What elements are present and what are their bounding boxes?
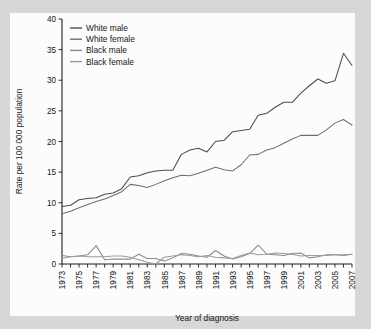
y-tick-label: 0 [51,260,56,269]
y-tick-label: 35 [47,46,57,55]
y-tick-label: 10 [47,199,57,208]
y-tick-label: 25 [47,107,57,116]
y-tick-label: 15 [47,168,57,177]
x-axis-ticks: 1973197519771979198119831985198719891991… [58,264,357,289]
y-tick-label: 5 [51,229,56,238]
x-tick-label: 1995 [246,271,255,290]
legend: White maleWhite femaleBlack maleBlack fe… [70,23,135,67]
legend-label-white-female: White female [86,34,135,44]
x-tick-label: 1997 [263,271,272,290]
x-tick-label: 2005 [331,271,340,290]
chart-svg: 0510152025303540197319751977197919811983… [0,0,371,329]
legend-label-black-female: Black female [86,57,134,67]
x-tick-label: 1979 [109,271,118,290]
y-tick-label: 40 [47,15,57,24]
x-tick-label: 1989 [195,271,204,290]
x-tick-label: 1975 [75,271,84,290]
series-line-white-male [62,53,352,206]
x-axis-title: Year of diagnosis [175,313,239,323]
legend-label-black-male: Black male [86,45,127,55]
series-group [62,53,352,264]
figure-container: 0510152025303540197319751977197919811983… [0,0,371,329]
series-line-black-female [62,253,352,264]
x-tick-label: 1991 [212,271,221,290]
line-chart: 0510152025303540197319751977197919811983… [0,0,371,329]
series-line-white-female [62,119,352,213]
x-tick-label: 1987 [178,271,187,290]
x-tick-label: 1977 [92,271,101,290]
x-tick-label: 2001 [297,271,306,290]
y-tick-label: 30 [47,76,57,85]
x-tick-label: 1973 [58,271,67,290]
series-line-black-male [62,245,352,261]
x-tick-label: 1993 [229,271,238,290]
x-tick-label: 1999 [280,271,289,290]
x-tick-label: 1985 [161,271,170,290]
x-tick-label: 2007 [348,271,357,290]
y-axis-title: Rate per 100 000 population [14,88,24,194]
x-tick-label: 1981 [126,271,135,290]
legend-label-white-male: White male [86,23,128,33]
y-axis-ticks: 0510152025303540 [47,15,62,269]
y-tick-label: 20 [47,138,57,147]
x-tick-label: 1983 [143,271,152,290]
x-tick-label: 2003 [314,271,323,290]
